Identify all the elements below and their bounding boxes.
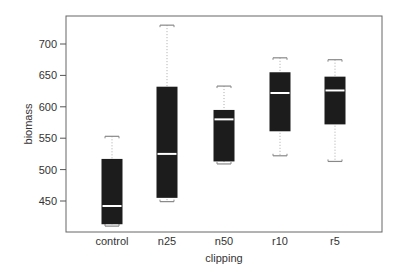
x-tick-label: n25 (158, 235, 176, 247)
boxes (102, 25, 346, 226)
y-tick-label: 450 (39, 195, 57, 207)
iqr-box (102, 159, 123, 224)
x-tick-label: r5 (330, 235, 340, 247)
y-tick-label: 500 (39, 164, 57, 176)
x-axis-title: clipping (205, 252, 242, 264)
y-axis-title: biomass (22, 103, 34, 144)
x-axis: controln25n50r10r5 (95, 235, 339, 247)
box-n25 (157, 25, 178, 201)
x-tick-label: control (95, 235, 128, 247)
box-n50 (214, 86, 235, 164)
box-control (102, 136, 123, 226)
y-tick-label: 700 (39, 38, 57, 50)
box-plot-chart: 450500550600650700 controln25n50r10r5 bi… (0, 0, 404, 276)
y-tick-label: 550 (39, 132, 57, 144)
iqr-box (157, 87, 178, 198)
y-tick-label: 650 (39, 69, 57, 81)
iqr-box (214, 110, 235, 161)
x-tick-label: r10 (272, 235, 288, 247)
box-r10 (270, 58, 291, 156)
iqr-box (270, 72, 291, 131)
y-tick-label: 600 (39, 101, 57, 113)
y-axis: 450500550600650700 (39, 38, 66, 207)
iqr-box (325, 77, 346, 125)
x-tick-label: n50 (215, 235, 233, 247)
box-r5 (325, 60, 346, 162)
